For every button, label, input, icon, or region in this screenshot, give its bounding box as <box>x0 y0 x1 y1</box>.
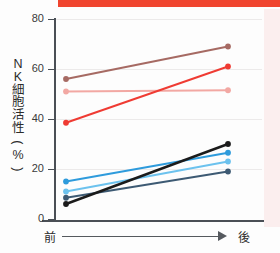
data-point-subject-4-before <box>63 179 69 185</box>
data-point-subject-1-after <box>225 44 231 50</box>
series-subject-3 <box>63 64 231 126</box>
series-subject-5 <box>63 159 231 195</box>
data-point-subject-3-after <box>225 64 231 70</box>
nk-activity-chart-figure: 80 60 40 20 0 N K 細 胞 活 性 ( % ) 前 後 <box>0 0 280 253</box>
progress-arrow-line <box>62 236 220 237</box>
data-point-subject-3-before <box>63 120 69 126</box>
data-point-subject-7-before <box>63 201 69 207</box>
progress-arrow-icon <box>218 231 227 241</box>
series-plot <box>0 0 280 253</box>
series-subject-2 <box>63 87 231 94</box>
data-point-subject-1-before <box>63 76 69 82</box>
x-axis-label-after: 後 <box>238 228 250 245</box>
data-point-subject-6-before <box>63 195 69 201</box>
data-point-subject-5-before <box>63 189 69 195</box>
data-point-subject-5-after <box>225 159 231 165</box>
data-point-subject-2-before <box>63 89 69 95</box>
series-line-subject-2 <box>66 90 228 91</box>
x-axis-label-before: 前 <box>44 228 56 245</box>
series-line-subject-7 <box>66 144 228 204</box>
data-point-subject-4-after <box>225 150 231 156</box>
data-point-subject-2-after <box>225 87 231 93</box>
series-subject-4 <box>63 150 231 185</box>
series-subject-7 <box>63 141 231 207</box>
data-point-subject-7-after <box>225 141 231 147</box>
series-subject-1 <box>63 44 231 82</box>
data-point-subject-6-after <box>225 169 231 175</box>
